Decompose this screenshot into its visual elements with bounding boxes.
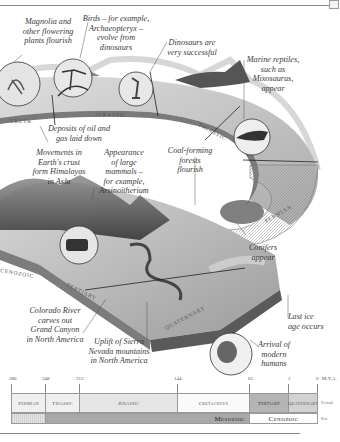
era-cenozoic: Cenozoic: [249, 413, 318, 424]
annotation-conifers: Conifers appear: [243, 243, 283, 262]
period-permian: Permian: [11, 393, 46, 413]
annotation-modern-humans: Arrival of modern humans: [254, 340, 294, 369]
bottom-rule: [0, 433, 300, 434]
tick-2: 2: [288, 376, 291, 381]
period-triassic: Triassic: [45, 393, 80, 413]
period-tertiary: Tertiary: [249, 393, 289, 413]
tick-mark: [177, 384, 178, 393]
tick-mark: [79, 384, 80, 393]
tick-213: 213: [76, 376, 84, 381]
annotation-magnolia: Magnolia and other flowering plants flou…: [20, 17, 76, 46]
annotation-sierra-nevada: Uplift of Sierra Nevada mountains in Nor…: [86, 337, 152, 366]
annotation-coal-forests: Coal-forming forests flourish: [160, 146, 220, 175]
annotation-colorado-river: Colorado River carves out Grand Canyon i…: [22, 306, 88, 344]
unit-label: M.Y.A.: [322, 376, 337, 381]
period-cretaceous: Cretaceous: [177, 393, 250, 413]
annotation-himalayas: Movements in Earth's crust form Himalaya…: [28, 148, 90, 186]
tick-0: 0: [316, 376, 319, 381]
period-quaternary: Quaternary: [288, 393, 318, 413]
svg-text:JURASSIC: JURASSIC: [95, 112, 127, 118]
era-paleozoic-segment: [11, 413, 46, 424]
annotation-oil-gas: Deposits of oil and gas laid down: [44, 124, 114, 143]
tick-mark: [11, 384, 12, 393]
period-jurassic: Jurassic: [79, 393, 178, 413]
tick-mark: [288, 384, 289, 393]
band-label-cretaceous: CRETA: [10, 118, 32, 124]
tick-mark: [249, 384, 250, 393]
tick-248: 248: [42, 376, 50, 381]
tick-mark: [45, 384, 46, 393]
tick-144: 144: [174, 376, 182, 381]
annotation-large-mammals: Appearance of large mammals – for exampl…: [94, 148, 154, 196]
annotation-birds: Birds – for example, Archaeopteryx – evo…: [78, 14, 154, 52]
tick-65: 65: [248, 376, 253, 381]
annotation-last-ice-age: Last ice age occurs: [280, 312, 334, 331]
row-label-period: Period: [321, 400, 333, 405]
era-mesozoic: Mesozoic: [45, 413, 250, 424]
annotation-marine-reptiles: Marine reptiles, such as Mixosaurus, app…: [244, 55, 302, 93]
row-label-era: Era: [321, 416, 327, 421]
tick-mark: [317, 384, 318, 393]
tick-286: 286: [9, 376, 17, 381]
annotation-dinosaurs: Dinosaurs are very successful: [161, 38, 223, 57]
